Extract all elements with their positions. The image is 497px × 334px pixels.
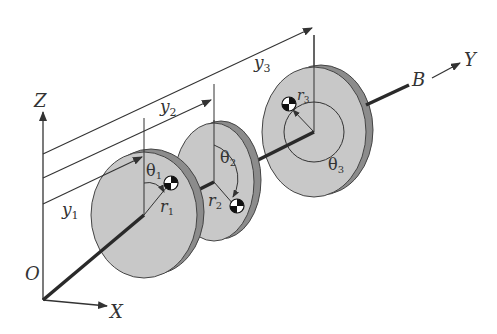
x-label: X (108, 301, 124, 322)
y-axis (432, 63, 460, 78)
b-label: B (411, 69, 425, 90)
mass-3-icon (282, 97, 296, 111)
y2-label: y2 (159, 96, 177, 119)
y-label: Y (464, 49, 478, 70)
origin-label: O (25, 263, 40, 284)
x-axis (43, 300, 107, 306)
mass-1-icon (164, 176, 178, 190)
rotor-diagram: Z X Y B O y1 y2 y3 θ1 θ2 θ3 r1 r2 r3 (0, 0, 497, 334)
y3-label: y3 (253, 52, 271, 75)
mass-2-icon (230, 199, 244, 213)
z-label: Z (33, 90, 47, 111)
disk-3 (262, 35, 373, 197)
y1-label: y1 (61, 199, 79, 222)
